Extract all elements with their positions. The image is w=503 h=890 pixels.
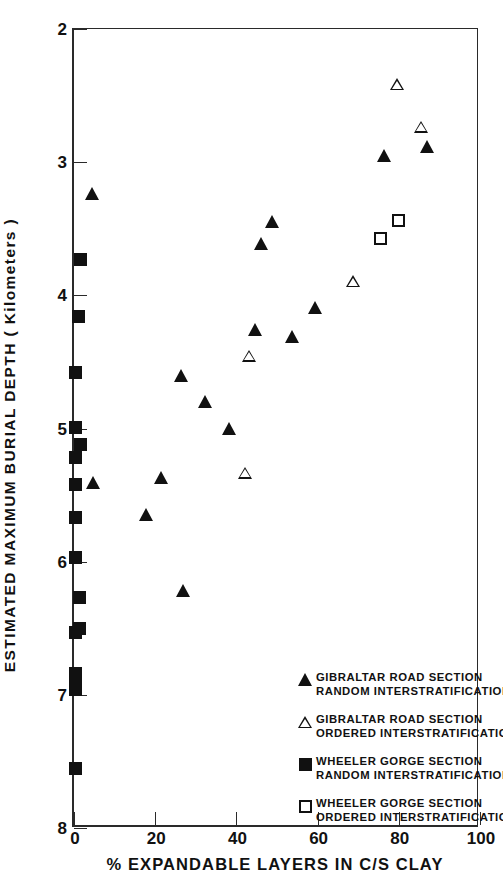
y-axis-title: ESTIMATED MAXIMUM BURIAL DEPTH ( Kilomet… xyxy=(1,145,19,745)
x-axis-tick: 0 xyxy=(74,812,75,825)
y-axis-tick-label: 5 xyxy=(58,420,67,440)
filled-square-marker xyxy=(72,310,85,323)
filled-square-marker xyxy=(69,421,82,434)
filled-triangle-marker xyxy=(298,673,312,686)
filled-square-marker xyxy=(69,683,82,696)
legend-swatch xyxy=(296,672,316,688)
legend-label-line1: WHEELER GORGE SECTION xyxy=(316,754,503,768)
legend-label: GIBRALTAR ROAD SECTIONRANDOM INTERSTRATI… xyxy=(316,670,503,699)
legend-swatch xyxy=(296,756,316,772)
filled-triangle-marker xyxy=(222,422,236,435)
chart-legend: GIBRALTAR ROAD SECTIONRANDOM INTERSTRATI… xyxy=(296,670,503,838)
filled-square-marker xyxy=(74,253,87,266)
legend-item: WHEELER GORGE SECTIONORDERED INTERSTRATI… xyxy=(296,796,503,825)
filled-triangle-marker xyxy=(265,215,279,228)
x-axis-tick-label: 40 xyxy=(228,829,247,849)
filled-square-marker xyxy=(69,511,82,524)
filled-square-marker xyxy=(69,551,82,564)
legend-label: WHEELER GORGE SECTIONRANDOM INTERSTRATIF… xyxy=(316,754,503,783)
plot-area: 2345678 020406080100 GIBRALTAR ROAD SECT… xyxy=(72,28,478,827)
filled-triangle-marker xyxy=(254,237,268,250)
y-axis-tick-label: 3 xyxy=(58,153,67,173)
legend-label-line2: RANDOM INTERSTRATIFICATION xyxy=(316,768,503,782)
x-axis-tick: 20 xyxy=(155,812,156,825)
y-axis-tick: 3 xyxy=(74,162,87,163)
scatter-chart-figure: ESTIMATED MAXIMUM BURIAL DEPTH ( Kilomet… xyxy=(0,0,503,890)
legend-label-line1: GIBRALTAR ROAD SECTION xyxy=(316,712,503,726)
y-axis-tick-label: 4 xyxy=(58,286,67,306)
open-triangle-marker xyxy=(242,350,256,362)
filled-triangle-marker xyxy=(308,301,322,314)
filled-square-marker xyxy=(69,451,82,464)
legend-label-line2: ORDERED INTERSTRATIFICATION xyxy=(316,810,503,824)
y-axis-tick-label: 8 xyxy=(58,819,67,839)
open-square-marker xyxy=(374,232,387,245)
open-triangle-marker xyxy=(238,467,252,479)
filled-triangle-marker xyxy=(174,369,188,382)
filled-square-marker xyxy=(74,438,87,451)
filled-triangle-marker xyxy=(420,140,434,153)
filled-triangle-marker xyxy=(86,476,100,489)
legend-swatch xyxy=(296,798,316,814)
filled-triangle-marker xyxy=(248,323,262,336)
y-axis-tick-label: 7 xyxy=(58,686,67,706)
legend-label-line1: WHEELER GORGE SECTION xyxy=(316,796,503,810)
filled-triangle-marker xyxy=(176,584,190,597)
filled-triangle-marker xyxy=(139,508,153,521)
legend-label-line2: RANDOM INTERSTRATIFICATION xyxy=(316,684,503,698)
filled-square-marker xyxy=(73,591,86,604)
legend-item: GIBRALTAR ROAD SECTIONRANDOM INTERSTRATI… xyxy=(296,670,503,699)
filled-triangle-marker xyxy=(198,395,212,408)
open-square-marker xyxy=(392,214,405,227)
y-axis-tick-label: 6 xyxy=(58,553,67,573)
open-triangle-marker xyxy=(414,121,428,133)
y-axis-tick-label: 2 xyxy=(58,20,67,40)
open-triangle-marker xyxy=(346,275,360,287)
filled-square-marker xyxy=(73,622,86,635)
legend-item: WHEELER GORGE SECTIONRANDOM INTERSTRATIF… xyxy=(296,754,503,783)
open-square-marker xyxy=(299,800,312,813)
legend-item: GIBRALTAR ROAD SECTIONORDERED INTERSTRAT… xyxy=(296,712,503,741)
y-axis-tick: 4 xyxy=(74,295,87,296)
filled-triangle-marker xyxy=(377,149,391,162)
x-axis-title: % EXPANDABLE LAYERS IN C/S CLAY xyxy=(72,855,478,874)
filled-square-marker xyxy=(69,762,82,775)
y-axis-tick: 2 xyxy=(74,29,87,30)
legend-swatch xyxy=(296,714,316,730)
filled-triangle-marker xyxy=(85,187,99,200)
legend-label: WHEELER GORGE SECTIONORDERED INTERSTRATI… xyxy=(316,796,503,825)
legend-label-line2: ORDERED INTERSTRATIFICATION xyxy=(316,726,503,740)
x-axis-tick-label: 20 xyxy=(147,829,166,849)
filled-square-marker xyxy=(299,758,312,771)
filled-triangle-marker xyxy=(154,471,168,484)
open-triangle-marker xyxy=(390,78,404,90)
legend-label: GIBRALTAR ROAD SECTIONORDERED INTERSTRAT… xyxy=(316,712,503,741)
filled-triangle-marker xyxy=(285,330,299,343)
filled-square-marker xyxy=(69,478,82,491)
legend-label-line1: GIBRALTAR ROAD SECTION xyxy=(316,670,503,684)
filled-square-marker xyxy=(69,366,82,379)
open-triangle-marker xyxy=(298,716,312,728)
x-axis-tick: 40 xyxy=(236,812,237,825)
x-axis-tick-label: 0 xyxy=(70,829,79,849)
